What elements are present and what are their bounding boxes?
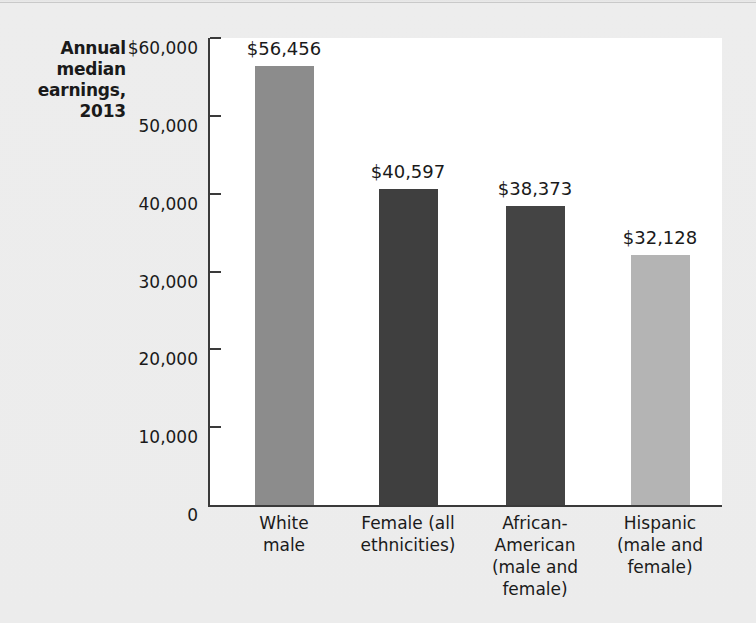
y-axis-tick-mark [210, 115, 221, 117]
category-label-line: Hispanic [595, 512, 725, 534]
y-axis-tick-mark [210, 193, 221, 195]
bar [506, 206, 565, 505]
bar-value-label: $38,373 [498, 178, 572, 199]
bar [631, 255, 690, 505]
category-label: African-American(male andfemale) [470, 512, 600, 600]
category-label: Hispanic(male andfemale) [595, 512, 725, 578]
y-axis-tick-labels: $60,00050,00040,00030,00020,00010,0000 [0, 0, 198, 623]
bar [255, 66, 314, 505]
category-label-line: Female (all [343, 512, 473, 534]
category-label-line: African- [470, 512, 600, 534]
bar-value-label: $56,456 [247, 38, 321, 59]
bar [379, 189, 438, 505]
category-label-line: ethnicities) [343, 534, 473, 556]
y-axis-tick-mark [210, 271, 221, 273]
category-label-line: female) [470, 578, 600, 600]
bar-value-label: $32,128 [623, 227, 697, 248]
category-label-line: White [219, 512, 349, 534]
y-axis-tick-mark [210, 37, 221, 39]
category-label-line: female) [595, 556, 725, 578]
bar-series [208, 38, 722, 505]
bar-value-label: $40,597 [371, 161, 445, 182]
category-label: Whitemale [219, 512, 349, 556]
category-label-line: (male and [470, 556, 600, 578]
x-axis-line [208, 505, 722, 507]
category-label-line: male [219, 534, 349, 556]
y-axis-tick-mark [210, 348, 221, 350]
category-label-line: American [470, 534, 600, 556]
x-axis-category-labels: WhitemaleFemale (allethnicities)African-… [208, 512, 722, 622]
category-label: Female (allethnicities) [343, 512, 473, 556]
category-label-line: (male and [595, 534, 725, 556]
y-axis-tick-mark [210, 426, 221, 428]
